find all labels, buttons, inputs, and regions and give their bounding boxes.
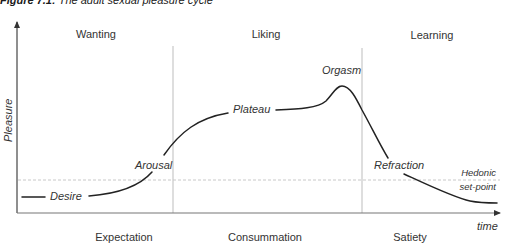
- outcome-label-satiety: Satiety: [393, 231, 427, 243]
- hedonic-label-line2: set-point: [452, 180, 496, 194]
- outcome-label-expectation: Expectation: [95, 231, 152, 243]
- x-axis-label: time: [477, 220, 498, 232]
- outcome-label-consummation: Consummation: [228, 231, 302, 243]
- hedonic-label-line1: Hedonic: [452, 166, 496, 180]
- phase-label-learning: Learning: [411, 29, 454, 41]
- phase-label-wanting: Wanting: [76, 28, 116, 40]
- hedonic-setpoint-label: Hedonic set-point: [452, 166, 496, 194]
- stage-label-desire: Desire: [50, 190, 82, 202]
- stage-label-orgasm: Orgasm: [322, 64, 361, 76]
- stage-label-arousal: Arousal: [135, 159, 172, 171]
- stage-label-plateau: Plateau: [233, 103, 270, 115]
- phase-label-liking: Liking: [252, 28, 281, 40]
- y-axis-label: Pleasure: [2, 99, 14, 142]
- stage-label-refraction: Refraction: [374, 159, 424, 171]
